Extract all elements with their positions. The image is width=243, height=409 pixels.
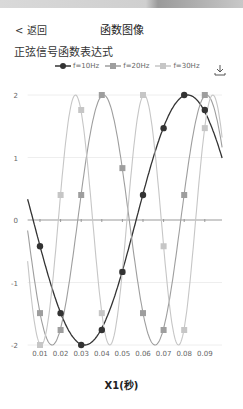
data-point: [160, 125, 166, 131]
data-point: [161, 327, 167, 333]
data-point: [140, 310, 146, 316]
x-tick-label: 0.02: [53, 350, 69, 358]
x-tick-label: 0.04: [94, 350, 110, 358]
x-axis-label: X1(秒): [0, 377, 243, 392]
chart-title: 正弦信号函数表达式: [14, 43, 113, 59]
legend-label: f=10Hz: [73, 62, 99, 70]
data-point: [99, 327, 105, 333]
data-point: [119, 269, 125, 275]
y-tick-label: 1: [14, 155, 18, 163]
legend-item-f20[interactable]: f=20Hz: [105, 62, 149, 70]
chart-legend: f=10Hz f=20Hz f=30Hz: [55, 60, 200, 72]
data-point: [140, 92, 146, 98]
page-title: 函数图像: [0, 21, 243, 37]
y-tick-label: 2: [14, 92, 18, 100]
x-tick-label: 0.01: [32, 350, 48, 358]
circle-marker-icon: [55, 62, 71, 70]
data-point: [140, 192, 146, 198]
data-point: [57, 310, 63, 316]
data-point: [202, 92, 208, 98]
legend-label: f=20Hz: [123, 62, 149, 70]
square-marker-icon: [155, 62, 171, 70]
data-point: [202, 107, 208, 113]
x-tick-label: 0.06: [135, 350, 151, 358]
data-point: [161, 243, 167, 249]
download-icon: [214, 64, 226, 76]
data-point: [58, 192, 64, 198]
data-point: [181, 327, 187, 333]
data-point: [202, 125, 208, 131]
data-point: [78, 107, 84, 113]
data-point: [37, 310, 43, 316]
x-tick-label: 0.09: [197, 350, 213, 358]
x-tick-label: 0.05: [115, 350, 131, 358]
data-point: [78, 342, 84, 348]
data-point: [99, 92, 105, 98]
nav-bar: < 返回 函数图像: [0, 18, 243, 42]
line-chart: 210-1-20.010.020.030.040.050.060.070.080…: [0, 80, 243, 370]
data-point: [99, 310, 105, 316]
x-tick-label: 0.07: [156, 350, 172, 358]
x-tick-label: 0.08: [176, 350, 192, 358]
data-point: [181, 192, 187, 198]
data-point: [58, 327, 64, 333]
status-bar: [0, 0, 243, 8]
legend-item-f30[interactable]: f=30Hz: [155, 62, 199, 70]
data-point: [119, 165, 125, 171]
legend-item-f10[interactable]: f=10Hz: [55, 62, 99, 70]
data-point: [37, 243, 43, 249]
x-tick-label: 0.03: [73, 350, 89, 358]
data-point: [181, 92, 187, 98]
y-tick-label: -1: [11, 280, 18, 288]
download-button[interactable]: [214, 61, 226, 80]
square-marker-icon: [105, 62, 121, 70]
y-tick-label: -2: [11, 342, 18, 350]
y-tick-label: 0: [14, 217, 18, 225]
legend-label: f=30Hz: [173, 62, 199, 70]
data-point: [78, 192, 84, 198]
data-point: [37, 342, 43, 348]
